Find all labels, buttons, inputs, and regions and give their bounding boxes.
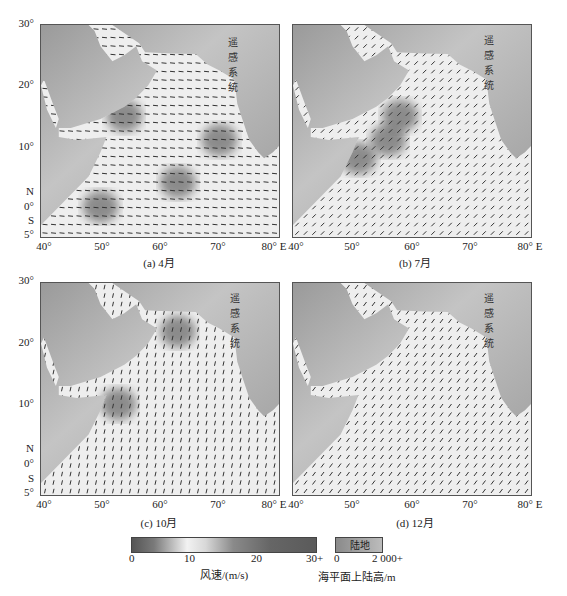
map-december (292, 282, 532, 496)
x-tick: 70° (210, 240, 225, 252)
colorbar-tick: 30+ (306, 552, 323, 564)
watermark: 遥感系统 (228, 34, 238, 94)
y-tick: N (10, 185, 34, 197)
panel-caption: (c) 10月 (141, 514, 178, 530)
y-tick: 10° (10, 140, 34, 152)
y-tick: 20° (10, 336, 34, 348)
x-tick: 60° (152, 240, 167, 252)
colorbar-tick: 20 (251, 552, 262, 564)
colorbar-title: 风速/(m/s) (200, 566, 248, 582)
y-tick: 10° (10, 397, 34, 409)
y-tick: 5° (10, 228, 34, 240)
map-april (40, 24, 280, 238)
x-tick: 40° (36, 498, 51, 510)
y-tick: 30° (10, 274, 34, 286)
land-legend-box-label: 陆地 (350, 537, 370, 552)
x-tick: 40° (288, 240, 303, 252)
x-tick: 80° E (262, 240, 287, 252)
x-tick: 70° (210, 498, 225, 510)
land-legend-tick: 0 (334, 552, 340, 564)
x-tick: 50° (94, 498, 109, 510)
x-tick: 50° (344, 240, 359, 252)
map-july (292, 24, 532, 238)
map-canvas (41, 25, 279, 237)
panel-caption: (b) 7月 (399, 254, 431, 270)
x-tick: 40° (288, 498, 303, 510)
x-tick: 60° (152, 498, 167, 510)
y-tick: 20° (10, 78, 34, 90)
map-canvas (41, 283, 279, 495)
x-tick: 70° (462, 240, 477, 252)
x-tick: 80° E (518, 240, 543, 252)
colorbar-tick: 10 (184, 552, 195, 564)
x-tick: 80° E (262, 498, 287, 510)
panel-caption: (d) 12月 (396, 514, 434, 530)
colorbar-tick: 0 (129, 552, 135, 564)
y-tick: 5° (10, 486, 34, 498)
y-tick: S (10, 472, 34, 484)
watermark: 遥感系统 (484, 32, 494, 92)
x-tick: 50° (344, 498, 359, 510)
x-tick: 50° (94, 240, 109, 252)
y-tick: S (10, 214, 34, 226)
map-canvas (293, 25, 531, 237)
map-october (40, 282, 280, 496)
watermark: 遥感系统 (484, 290, 494, 350)
y-tick: 0° (10, 457, 34, 469)
land-legend-tick: 2 000+ (372, 552, 403, 564)
map-canvas (293, 283, 531, 495)
x-tick: 40° (36, 240, 51, 252)
wind-speed-colorbar (131, 537, 317, 553)
watermark: 遥感系统 (230, 290, 240, 350)
x-tick: 80° E (518, 498, 543, 510)
land-legend-title: 海平面上陆高/m (318, 568, 396, 584)
x-tick: 70° (462, 498, 477, 510)
panel-caption: (a) 4月 (143, 254, 174, 270)
y-tick: 0° (10, 200, 34, 212)
y-tick: N (10, 442, 34, 454)
y-tick: 30° (10, 17, 34, 29)
x-tick: 60° (404, 240, 419, 252)
x-tick: 60° (404, 498, 419, 510)
